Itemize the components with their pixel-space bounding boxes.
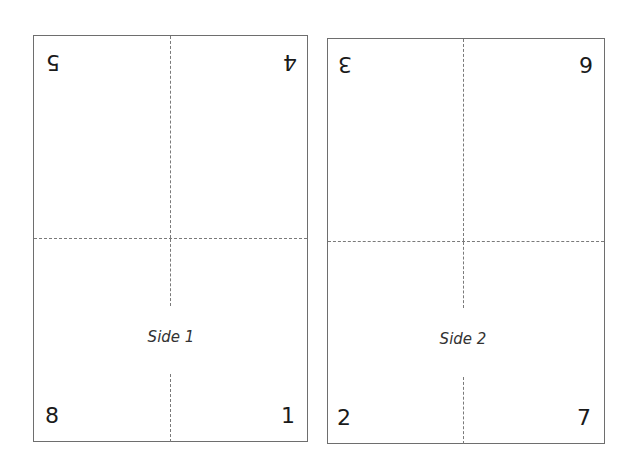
- page-number-bottom-left: 2: [337, 407, 351, 429]
- vertical-fold-line-bottom-lower: [170, 374, 171, 442]
- page-number-top-right: 4: [283, 51, 297, 73]
- sheet-side-1: 5 4 Side 1 8 1: [33, 35, 308, 442]
- vertical-fold-line-bottom-lower: [463, 377, 464, 444]
- horizontal-fold-line: [328, 241, 604, 242]
- vertical-fold-line-bottom-upper: [170, 239, 171, 306]
- vertical-fold-line-top: [463, 39, 464, 241]
- side-label: Side 2: [440, 330, 487, 348]
- page-number-top-left: 5: [46, 51, 60, 73]
- page-number-top-left: 3: [338, 53, 352, 75]
- sheet-side-2: 3 6 Side 2 2 7: [327, 38, 605, 444]
- page-number-bottom-right: 7: [577, 407, 591, 429]
- page-number-bottom-left: 8: [45, 405, 59, 427]
- page-number-top-right: 6: [579, 53, 593, 75]
- vertical-fold-line-bottom-upper: [463, 242, 464, 308]
- vertical-fold-line-top: [170, 36, 171, 238]
- side-label: Side 1: [148, 328, 195, 346]
- page-number-bottom-right: 1: [281, 405, 295, 427]
